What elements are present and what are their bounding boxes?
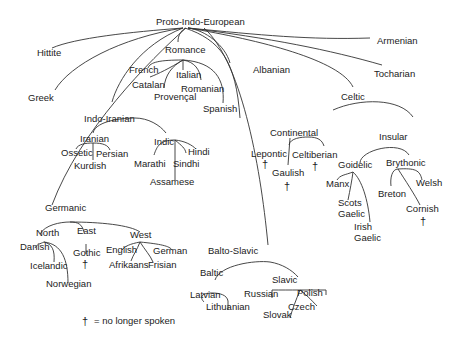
node-goidelic: Goidelic (338, 159, 373, 170)
node-russian: Russian (244, 288, 278, 299)
node-insular: Insular (379, 131, 408, 142)
legend: † = no longer spoken (82, 315, 175, 327)
node-provencal: Provençal (154, 91, 196, 102)
node-irish-gaelic-line1: Irish (354, 221, 372, 232)
node-slovak: Slovak (263, 309, 292, 320)
extinct-dagger-celtiberian: † (312, 160, 318, 172)
node-gaulish: Gaulish (272, 167, 304, 178)
node-marathi: Marathi (134, 158, 166, 169)
node-sindhi: Sindhi (173, 158, 199, 169)
node-armenian: Armenian (377, 35, 418, 46)
node-hindi: Hindi (188, 146, 210, 157)
node-east: East (77, 225, 96, 236)
node-latvian: Latvian (190, 289, 221, 300)
node-breton: Breton (378, 188, 406, 199)
extinct-dagger-cornish: † (420, 215, 426, 227)
extinct-dagger-gothic: † (82, 258, 88, 270)
node-balto-slavic: Balto-Slavic (208, 245, 258, 256)
node-celtiberian: Celtiberian (292, 149, 337, 160)
node-norwegian: Norwegian (46, 278, 91, 289)
node-north: North (36, 227, 59, 238)
node-scots-gaelic-line1: Scots (338, 197, 362, 208)
extinct-dagger-lepontic: † (262, 158, 268, 170)
node-greek: Greek (28, 92, 54, 103)
node-icelandic: Icelandic (30, 260, 68, 271)
tree-edges (35, 28, 422, 318)
node-spanish: Spanish (203, 103, 237, 114)
node-danish: Danish (20, 241, 50, 252)
node-afrikaans: Afrikaans (109, 259, 149, 270)
node-gothic: Gothic (73, 247, 101, 258)
node-czech: Czech (288, 301, 315, 312)
node-indic: Indic (154, 136, 174, 147)
node-baltic: Baltic (200, 267, 223, 278)
node-kurdish: Kurdish (74, 160, 106, 171)
node-italian: Italian (176, 69, 201, 80)
extinct-dagger-gaulish: † (284, 180, 290, 192)
node-assamese: Assamese (150, 176, 194, 187)
node-scots-gaelic-line2: Gaelic (338, 208, 365, 219)
node-lepontic: Lepontic (251, 148, 287, 159)
node-lithuanian: Lithuanian (206, 301, 250, 312)
node-english: English (106, 244, 137, 255)
node-catalan: Catalan (132, 79, 165, 90)
legend-text: = no longer spoken (94, 315, 175, 326)
node-indo-iranian: Indo-Iranian (84, 113, 135, 124)
node-albanian: Albanian (253, 64, 290, 75)
node-germanic: Germanic (45, 202, 86, 213)
node-continental: Continental (270, 127, 318, 138)
node-ossetic: Ossetic (61, 147, 93, 158)
node-french: French (129, 64, 159, 75)
node-romance: Romance (165, 44, 206, 55)
node-slavic: Slavic (272, 274, 298, 285)
node-iranian: Iranian (80, 133, 109, 144)
node-tocharian: Tocharian (374, 68, 415, 79)
node-west: West (130, 229, 152, 240)
node-manx: Manx (326, 178, 349, 189)
node-hittite: Hittite (37, 47, 61, 58)
node-cornish: Cornish (406, 203, 439, 214)
node-persian: Persian (96, 148, 128, 159)
node-celtic: Celtic (341, 91, 365, 102)
node-welsh: Welsh (416, 177, 442, 188)
node-brythonic: Brythonic (386, 157, 426, 168)
node-proto-indo-european: Proto-Indo-European (156, 16, 245, 27)
node-polish: Polish (297, 287, 323, 298)
node-german: German (153, 245, 187, 256)
node-irish-gaelic-line2: Gaelic (354, 232, 381, 243)
language-family-tree: Proto-Indo-European Hittite Greek Romanc… (0, 0, 461, 344)
legend-dagger-icon: † (82, 315, 88, 327)
tree-labels: Proto-Indo-European Hittite Greek Romanc… (20, 16, 442, 320)
node-frisian: Frisian (148, 259, 177, 270)
